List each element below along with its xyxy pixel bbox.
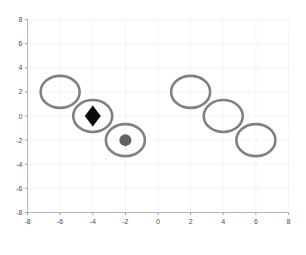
- y-tick-label: 0: [19, 113, 23, 120]
- grid-lines: [28, 20, 289, 213]
- y-tick-label: -4: [16, 161, 22, 168]
- filled-diamond-marker: [85, 106, 101, 127]
- y-tick-label: 2: [19, 88, 23, 95]
- x-tick-label: 6: [254, 218, 258, 225]
- tick-marks: [25, 20, 289, 216]
- y-tick-label: -8: [16, 209, 22, 216]
- x-tick-labels: -8-6-4-202468: [24, 218, 290, 225]
- x-tick-label: 4: [221, 218, 225, 225]
- x-tick-label: -4: [90, 218, 96, 225]
- y-tick-label: -6: [16, 185, 22, 192]
- y-tick-labels: -8-6-4-202468: [16, 16, 22, 216]
- x-tick-label: -6: [57, 218, 63, 225]
- x-tick-label: 0: [156, 218, 160, 225]
- chart-figure: -8-6-4-202468 -8-6-4-202468: [0, 0, 306, 255]
- x-tick-label: 2: [189, 218, 193, 225]
- x-tick-label: -8: [24, 218, 30, 225]
- x-tick-label: 8: [287, 218, 291, 225]
- x-tick-label: -2: [122, 218, 128, 225]
- scatter-plot: -8-6-4-202468 -8-6-4-202468: [0, 0, 306, 255]
- y-tick-label: -2: [16, 137, 22, 144]
- y-tick-label: 6: [19, 40, 23, 47]
- y-tick-label: 4: [19, 64, 23, 71]
- y-tick-label: 8: [19, 16, 23, 23]
- filled-dot-marker: [119, 134, 131, 146]
